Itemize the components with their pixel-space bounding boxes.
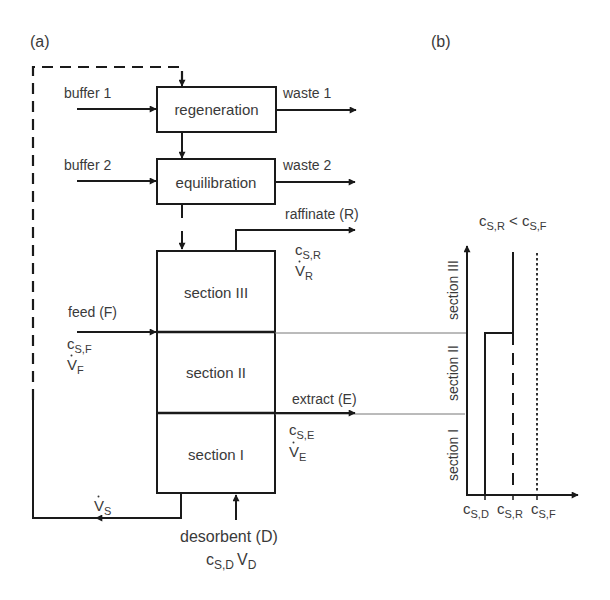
recycle-flow: VS [94,497,111,517]
section-ii-label: section II [186,364,246,381]
y-label-section-ii: section II [445,345,461,401]
y-label-section-iii: section III [445,260,461,320]
flow-dot-icon [98,496,100,498]
desorbent-label: desorbent (D) [180,528,278,545]
desorbent-params: cS,DVD [206,551,257,572]
panel-b-label: (b) [431,33,451,50]
raffinate-line [236,230,352,251]
regeneration-label: regeneration [174,101,258,118]
x-label-csf: cS,F [531,500,556,520]
section-iii-label: section III [184,284,248,301]
waste2-label: waste 2 [282,157,331,173]
raffinate-flow: VR [295,262,313,282]
concentration-profile-solid [485,252,513,495]
panel-a-label: (a) [30,33,50,50]
extract-concentration: cS,E [289,421,314,441]
smb-process-diagram: (a) regeneration buffer 1 waste 1 equili… [0,0,610,600]
flow-dot-icon [71,355,73,357]
feed-flow: VF [67,356,84,376]
y-label-section-i: section I [445,429,461,481]
equilibration-label: equilibration [176,174,257,191]
buffer1-label: buffer 1 [64,85,111,101]
x-label-csr: cS,R [497,500,523,520]
extract-label: extract (E) [292,391,357,407]
extract-flow: VE [289,443,306,463]
flow-dot-icon [293,442,295,444]
raffinate-concentration: cS,R [295,241,321,261]
raffinate-label: raffinate (R) [285,206,359,222]
buffer2-label: buffer 2 [64,157,111,173]
waste1-label: waste 1 [282,85,331,101]
concentration-condition: cS,R < cS,F [479,212,547,232]
x-label-csd: cS,D [463,500,489,520]
feed-label: feed (F) [68,304,117,320]
feed-concentration: cS,F [67,335,92,355]
flow-dot-icon [299,261,301,263]
section-i-label: section I [188,446,244,463]
